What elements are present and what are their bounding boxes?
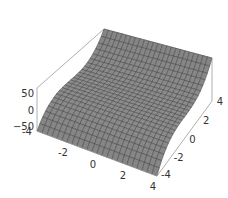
z-tick-label: 0 <box>28 105 34 116</box>
x-tick-label: 4 <box>150 181 156 192</box>
y-tick-label: 4 <box>217 96 223 107</box>
y-tick-label: -4 <box>161 169 171 180</box>
y-tick-label: 2 <box>203 115 209 126</box>
x-tick-label: -4 <box>22 126 32 137</box>
z-tick-label: 50 <box>21 88 34 99</box>
x-tick-label: -2 <box>58 147 68 158</box>
surface-plot: 500−50 -4-2024 -4-2024 <box>0 0 228 198</box>
y-tick-label: 0 <box>189 134 195 145</box>
x-tick-label: 0 <box>90 159 96 170</box>
y-tick-label: -2 <box>174 152 184 163</box>
x-tick-label: 2 <box>120 170 126 181</box>
